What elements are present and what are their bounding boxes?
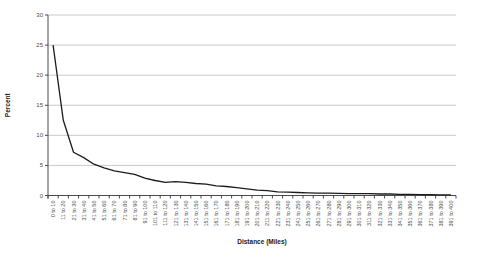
y-tick-label: 20 <box>36 72 43 78</box>
x-tick-label: 11 to 20 <box>60 201 66 220</box>
y-tick-label: 15 <box>36 102 43 108</box>
x-axis-ticks <box>48 196 456 199</box>
x-tick-label: 331 to 340 <box>387 201 393 227</box>
x-tick-label: 141 to 150 <box>193 201 199 227</box>
x-tick-label: 0 to 10 <box>50 201 56 218</box>
x-tick-label: 111 to 120 <box>162 201 168 226</box>
x-tick-label: 351 to 360 <box>407 201 413 227</box>
x-tick-label: 361 to 370 <box>417 201 423 227</box>
x-axis-title: Distance (Miles) <box>237 238 287 246</box>
x-tick-label: 241 to 250 <box>295 201 301 227</box>
x-tick-label: 31 to 40 <box>81 201 87 221</box>
y-tick-label: 5 <box>40 162 44 168</box>
x-tick-label: 151 to 160 <box>203 201 209 227</box>
y-axis-title: Percent <box>4 92 11 117</box>
series-line <box>53 45 451 195</box>
x-tick-label: 131 to 140 <box>183 201 189 227</box>
x-tick-label: 211 to 220 <box>264 201 270 227</box>
x-tick-label: 201 to 210 <box>254 201 260 227</box>
x-tick-label: 121 to 130 <box>173 201 179 227</box>
x-tick-label: 101 to 110 <box>152 201 158 227</box>
x-tick-label: 341 to 350 <box>397 201 403 227</box>
axes <box>48 15 456 199</box>
x-tick-label: 311 to 320 <box>366 201 372 227</box>
x-tick-label: 301 to 310 <box>356 201 362 227</box>
x-tick-label: 281 to 290 <box>336 201 342 227</box>
x-tick-label: 91 to 100 <box>142 201 148 224</box>
x-tick-label: 191 to 200 <box>244 201 250 227</box>
x-tick-label: 371 to 380 <box>428 201 434 227</box>
x-tick-label: 51 to 60 <box>101 201 107 221</box>
x-category-labels: 0 to 1011 to 2021 to 3031 to 4041 to 505… <box>50 201 454 227</box>
x-tick-label: 271 to 280 <box>326 201 332 227</box>
x-tick-label: 381 to 390 <box>438 201 444 227</box>
chart-window: 0510152025300 to 1011 to 2021 to 3031 to… <box>0 0 481 255</box>
line-chart: 0510152025300 to 1011 to 2021 to 3031 to… <box>0 0 481 255</box>
x-tick-label: 261 to 270 <box>315 201 321 227</box>
x-tick-label: 251 to 260 <box>305 201 311 227</box>
x-tick-label: 71 to 80 <box>122 201 128 221</box>
x-tick-label: 41 to 50 <box>91 201 97 221</box>
x-tick-label: 81 to 90 <box>132 201 138 221</box>
x-tick-label: 21 to 30 <box>71 201 77 221</box>
x-tick-label: 391 to 400 <box>448 201 454 227</box>
x-tick-label: 181 to 190 <box>234 201 240 227</box>
y-tick-label: 0 <box>40 193 44 199</box>
x-tick-label: 61 to 70 <box>111 201 117 221</box>
y-tick-label: 10 <box>36 132 43 138</box>
x-tick-label: 321 to 330 <box>377 201 383 227</box>
y-tick-label: 25 <box>36 42 43 48</box>
y-tick-label: 30 <box>36 12 43 18</box>
x-tick-label: 291 to 300 <box>346 201 352 227</box>
x-tick-label: 231 to 240 <box>285 201 291 227</box>
gridlines <box>48 15 456 165</box>
x-tick-label: 171 to 180 <box>224 201 230 227</box>
y-axis-ticks: 051015202530 <box>36 12 48 199</box>
x-tick-label: 221 to 230 <box>275 201 281 227</box>
x-tick-label: 161 to 170 <box>213 201 219 227</box>
